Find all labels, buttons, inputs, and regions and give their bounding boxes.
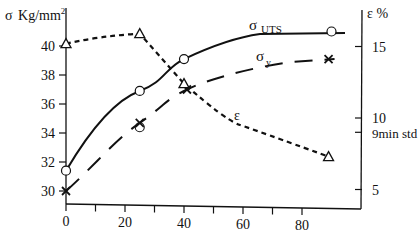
yield-label: σy xyxy=(256,48,271,68)
right-axis-label: ε % xyxy=(367,6,388,21)
left-tick-label: 36 xyxy=(41,97,55,112)
right-tick-label: 5 xyxy=(372,183,379,198)
uts-marker-circle xyxy=(62,166,71,175)
min-std-label: 9min std xyxy=(372,126,418,141)
ticks: 30323436384002040608051015 xyxy=(41,39,386,230)
strain-marker-triangle xyxy=(135,29,145,38)
x-tick-label: 40 xyxy=(177,216,191,230)
left-axis-label: σ Kg/mm2 xyxy=(5,6,65,23)
left-tick-label: 40 xyxy=(41,39,55,54)
uts-marker-circle xyxy=(180,55,189,64)
left-tick-label: 30 xyxy=(41,184,55,199)
x-tick-label: 0 xyxy=(63,214,70,229)
chart: 30323436384002040608051015 σ Kg/mm2 ε % … xyxy=(0,0,420,230)
right-axis xyxy=(361,10,362,209)
right-tick-label: 15 xyxy=(372,40,386,55)
axes xyxy=(66,8,362,209)
left-tick-label: 34 xyxy=(41,126,55,141)
x-tick-label: 60 xyxy=(236,217,250,230)
uts-label: σUTS xyxy=(249,17,282,35)
left-tick-label: 38 xyxy=(41,68,55,83)
yield-line xyxy=(66,59,335,191)
series xyxy=(66,33,345,191)
x-tick-label: 80 xyxy=(295,218,309,230)
yield-marker-x xyxy=(136,119,144,127)
uts-line xyxy=(66,33,345,171)
uts-marker-circle xyxy=(327,27,336,36)
uts-marker-circle xyxy=(135,86,144,95)
left-tick-label: 32 xyxy=(41,155,55,170)
x-tick-label: 20 xyxy=(118,215,132,230)
right-tick-label: 10 xyxy=(372,111,386,126)
strain-label: ε xyxy=(234,108,240,123)
